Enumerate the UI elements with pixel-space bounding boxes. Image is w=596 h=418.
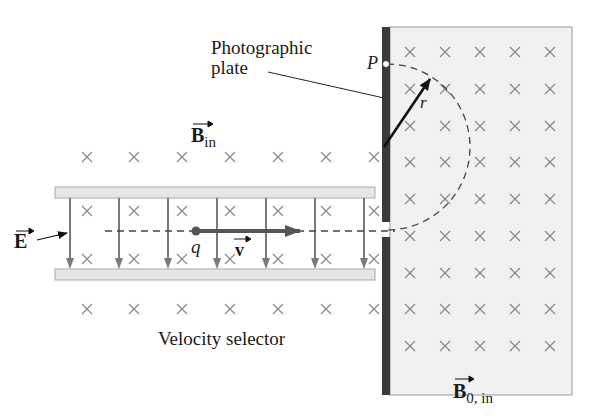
velocity-selector-label: Velocity selector (158, 328, 285, 350)
b0-in-label: B0, in (453, 380, 493, 407)
photographic-plate-label-line2: plate (211, 58, 312, 78)
charge-label: q (191, 236, 201, 258)
photographic-plate-lower (382, 237, 390, 395)
radius-label: r (420, 93, 427, 113)
e-field-arrowhead (164, 258, 172, 269)
point-p-marker (383, 61, 390, 68)
b0-field-region (390, 27, 572, 395)
e-field-label: E (14, 230, 27, 253)
bottom-capacitor-plate (55, 269, 375, 280)
e-field-arrowhead (115, 258, 123, 269)
b0-in-letter: B (453, 380, 466, 402)
e-field-arrowhead (262, 258, 270, 269)
point-p-label: P (367, 53, 378, 74)
photographic-plate-label: Photographic plate (211, 38, 312, 78)
b-in-letter: B (191, 124, 204, 146)
b0-in-subscript: 0, in (466, 390, 493, 406)
e-field-arrowhead (213, 258, 221, 269)
velocity-label: v (235, 240, 244, 261)
e-field-arrowhead (360, 258, 368, 269)
b-in-subscript: in (204, 134, 216, 150)
e-field-arrows (66, 198, 368, 269)
e-label-arrow (37, 233, 67, 240)
photographic-plate-label-line1: Photographic (211, 38, 312, 58)
photographic-plate-upper (382, 27, 390, 222)
charge-q-dot (192, 227, 201, 236)
e-field-arrowhead (311, 258, 319, 269)
top-capacitor-plate (55, 187, 375, 198)
e-field-arrowhead (66, 258, 74, 269)
b-in-label: Bin (191, 124, 216, 151)
